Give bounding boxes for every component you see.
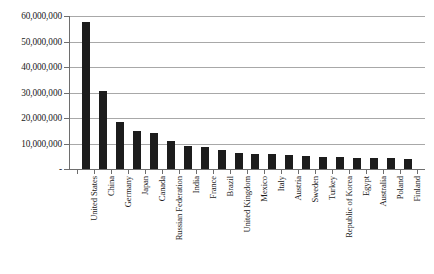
- x-axis-tick-label: Brazil: [225, 176, 235, 196]
- bar: [268, 154, 276, 169]
- x-axis-tick-label: United Kingdom: [242, 176, 252, 233]
- bar: [201, 147, 209, 169]
- x-axis-tick-label: Japan: [140, 176, 150, 195]
- x-axis-tick: [94, 169, 95, 174]
- x-axis-tick-label: Canada: [157, 176, 167, 201]
- x-axis-tick: [162, 169, 163, 174]
- x-axis-tick: [400, 169, 401, 174]
- x-axis-tick-label: China: [106, 176, 116, 196]
- y-axis-tick-label: 50,000,000: [21, 37, 62, 47]
- bar: [235, 153, 243, 169]
- bar: [251, 154, 259, 169]
- bar: [387, 158, 395, 169]
- bar: [404, 159, 412, 169]
- y-axis-tick-label: -: [59, 164, 62, 174]
- x-axis-tick-label: Mexico: [259, 176, 269, 202]
- y-axis-tick-label: 30,000,000: [21, 88, 62, 98]
- x-axis-tick: [332, 169, 333, 174]
- x-axis-tick-label: Poland: [395, 176, 405, 199]
- x-axis-tick: [77, 169, 78, 174]
- x-axis-tick-label: India: [191, 176, 201, 193]
- x-axis-tick: [111, 169, 112, 174]
- x-axis-tick: [128, 169, 129, 174]
- x-axis-tick: [196, 169, 197, 174]
- x-axis-tick-label: United States: [89, 176, 99, 221]
- bar-chart: -10,000,00020,000,00030,000,00040,000,00…: [0, 0, 434, 274]
- bar: [116, 122, 124, 169]
- bar: [336, 157, 344, 169]
- x-axis-tick-label: Australia: [378, 176, 388, 207]
- x-axis-tick: [349, 169, 350, 174]
- y-axis-tick-label: 40,000,000: [21, 62, 62, 72]
- x-axis-tick-label: Turkey: [327, 176, 337, 200]
- x-axis-tick-label: Sweden: [310, 176, 320, 203]
- x-axis-tick-label: France: [208, 176, 218, 199]
- x-axis-tick: [145, 169, 146, 174]
- bars-layer: [69, 16, 425, 169]
- x-axis-tick: [315, 169, 316, 174]
- x-axis-tick: [179, 169, 180, 174]
- x-axis-tick: [298, 169, 299, 174]
- bar: [353, 158, 361, 169]
- x-axis-tick-label: Egypt: [361, 176, 371, 196]
- bar: [167, 141, 175, 169]
- y-axis-tick-label: 20,000,000: [21, 113, 62, 123]
- x-axis-tick: [230, 169, 231, 174]
- y-axis-tick-label: 60,000,000: [21, 11, 62, 21]
- bar: [285, 155, 293, 169]
- x-axis-tick: [213, 169, 214, 174]
- bar: [82, 22, 90, 169]
- y-axis: -10,000,00020,000,00030,000,00040,000,00…: [0, 0, 69, 180]
- x-axis-ticks: [69, 169, 425, 174]
- x-axis-tick-label: Republic of Korea: [344, 176, 354, 238]
- bar: [99, 91, 107, 169]
- x-axis-tick: [247, 169, 248, 174]
- x-axis-tick-label: Italy: [276, 176, 286, 191]
- bar: [319, 157, 327, 169]
- x-axis: United StatesChinaGermanyJapanCanadaRuss…: [69, 176, 425, 274]
- y-axis-tick-label: 10,000,000: [21, 139, 62, 149]
- x-axis-tick: [264, 169, 265, 174]
- x-axis-tick-label: Russian Federation: [174, 176, 184, 240]
- x-axis-tick: [383, 169, 384, 174]
- bar: [302, 156, 310, 169]
- bar: [370, 158, 378, 169]
- bar: [218, 150, 226, 169]
- x-axis-tick: [281, 169, 282, 174]
- x-axis-tick-label: Germany: [123, 176, 133, 207]
- x-axis-tick-label: Finland: [412, 176, 422, 202]
- bar: [133, 131, 141, 170]
- x-axis-tick: [417, 169, 418, 174]
- x-axis-tick-label: Austria: [293, 176, 303, 201]
- bar: [184, 146, 192, 169]
- bar: [150, 133, 158, 169]
- x-axis-tick: [366, 169, 367, 174]
